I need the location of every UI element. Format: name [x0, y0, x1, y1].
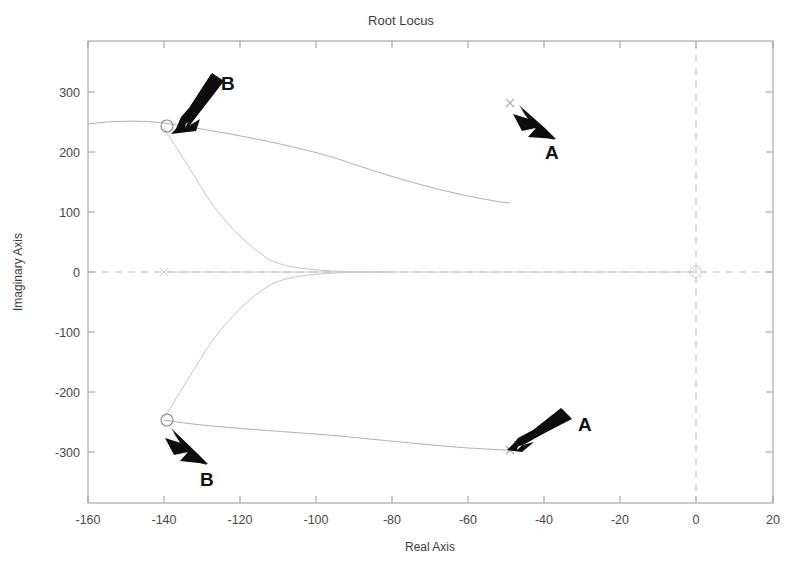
x-tick-label: -120 — [227, 513, 252, 527]
root-locus-plot: Root Locus — [0, 0, 802, 572]
x-tick-label: 20 — [766, 513, 780, 527]
x-tick-label: -80 — [383, 513, 401, 527]
y-tick-label: 0 — [73, 266, 80, 280]
y-axis-label: Imaginary Axis — [11, 233, 25, 311]
root-locus-figure: Root Locus — [0, 0, 802, 572]
x-tick-label: -160 — [75, 513, 100, 527]
x-tick-label: -20 — [611, 513, 629, 527]
annotation-label-b-lower: B — [200, 469, 214, 490]
annotation-label-a-lower: A — [578, 414, 592, 435]
x-tick-label: -40 — [535, 513, 553, 527]
page-title: Root Locus — [368, 13, 434, 28]
x-tick-label: -60 — [459, 513, 477, 527]
y-tick-label: 300 — [59, 86, 80, 100]
y-tick-label: 200 — [59, 146, 80, 160]
y-tick-label: -200 — [55, 386, 80, 400]
annotation-label-b-upper: B — [221, 73, 235, 94]
y-tick-label: 100 — [59, 206, 80, 220]
x-tick-label: -100 — [303, 513, 328, 527]
x-axis-label: Real Axis — [405, 540, 455, 554]
figure-background — [0, 0, 802, 572]
y-tick-label: -300 — [55, 446, 80, 460]
annotation-label-a-upper: A — [545, 142, 559, 163]
x-tick-label: 0 — [693, 513, 700, 527]
y-tick-label: -100 — [55, 326, 80, 340]
x-tick-label: -140 — [151, 513, 176, 527]
